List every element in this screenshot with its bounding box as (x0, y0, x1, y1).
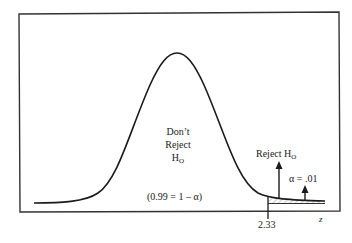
critical-value-label: 2.33 (258, 219, 276, 231)
reject-h0-subscript: O (291, 153, 296, 161)
alpha-arrow-icon (302, 185, 309, 193)
dont-reject-line2: Reject (150, 139, 206, 151)
alpha-label: α = .01 (289, 173, 317, 185)
dont-reject-label: Don’t Reject HO (150, 126, 206, 167)
h0-subscript: O (179, 157, 184, 165)
normal-curve-diagram (0, 0, 352, 243)
dont-reject-line1: Don’t (150, 126, 206, 138)
dont-reject-line3: HO (150, 152, 206, 167)
confidence-label: (0.99 = 1 – α) (147, 191, 202, 203)
h0-label: H (172, 152, 179, 163)
reject-h0-text: Reject H (256, 148, 291, 159)
reject-label: Reject HO (256, 148, 296, 163)
z-axis-label: z (319, 213, 323, 225)
